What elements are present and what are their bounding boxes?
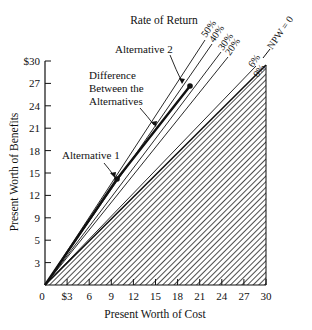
x-tick-label: 15 bbox=[150, 290, 162, 302]
y-tick-label: 18 bbox=[29, 145, 41, 157]
difference-label: Difference Between the Alternatives bbox=[89, 69, 144, 107]
x-tick-label: 24 bbox=[216, 290, 228, 302]
x-tick-label: 21 bbox=[194, 290, 205, 302]
chart-title: Rate of Return bbox=[130, 14, 198, 26]
difference-arrowhead bbox=[151, 121, 157, 127]
svg-text:Alternatives: Alternatives bbox=[89, 95, 143, 107]
chart: 3 5 9 12 15 18 21 24 27 $30 0 $3 6 9 12 … bbox=[0, 0, 312, 330]
y-tick-label: 5 bbox=[35, 234, 41, 246]
y-tick-label: 9 bbox=[35, 212, 41, 224]
npw-leader bbox=[263, 49, 270, 58]
alternative-2-arrow bbox=[170, 55, 182, 82]
y-tick-label: 21 bbox=[29, 122, 40, 134]
x-tick-label: 30 bbox=[261, 290, 273, 302]
y-tick-label: $30 bbox=[24, 55, 41, 67]
alternative-1-arrowhead bbox=[110, 172, 116, 178]
x-tick-label: 18 bbox=[172, 290, 184, 302]
x-tick-label: 27 bbox=[238, 290, 250, 302]
alternative-2-point bbox=[187, 83, 193, 89]
alternative-1-label: Alternative 1 bbox=[62, 149, 120, 161]
alternative-2-label: Alternative 2 bbox=[115, 43, 173, 55]
y-tick-label: 15 bbox=[29, 167, 41, 179]
svg-text:Difference: Difference bbox=[89, 69, 136, 81]
x-tick-label: $3 bbox=[62, 290, 74, 302]
y-tick-label: 12 bbox=[29, 189, 40, 201]
x-axis-title: Present Worth of Cost bbox=[104, 308, 206, 320]
x-tick-label: 9 bbox=[109, 290, 115, 302]
alternative-2-arrowhead bbox=[179, 78, 185, 84]
x-tick-label: 12 bbox=[128, 290, 139, 302]
x-tick-label: 0 bbox=[39, 290, 45, 302]
y-tick-label: 3 bbox=[35, 257, 41, 269]
x-tick-label: 6 bbox=[86, 290, 92, 302]
y-ticks bbox=[45, 61, 51, 263]
y-tick-label: 27 bbox=[29, 77, 41, 89]
svg-text:Between the: Between the bbox=[89, 82, 144, 94]
y-axis-title: Present Worth of Benefits bbox=[8, 112, 20, 231]
npw-label: NPW = 0 bbox=[265, 14, 296, 51]
y-tick-label: 24 bbox=[29, 100, 41, 112]
